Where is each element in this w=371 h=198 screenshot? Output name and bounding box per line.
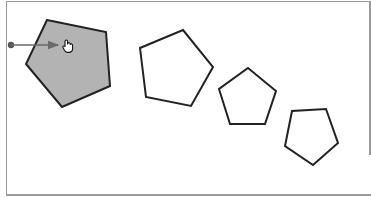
pentagon-4[interactable] [285,109,338,165]
pentagon-selected[interactable] [26,20,110,107]
diagram-canvas [0,0,371,198]
pentagon-3[interactable] [219,68,276,124]
pentagon-2[interactable] [140,30,213,106]
